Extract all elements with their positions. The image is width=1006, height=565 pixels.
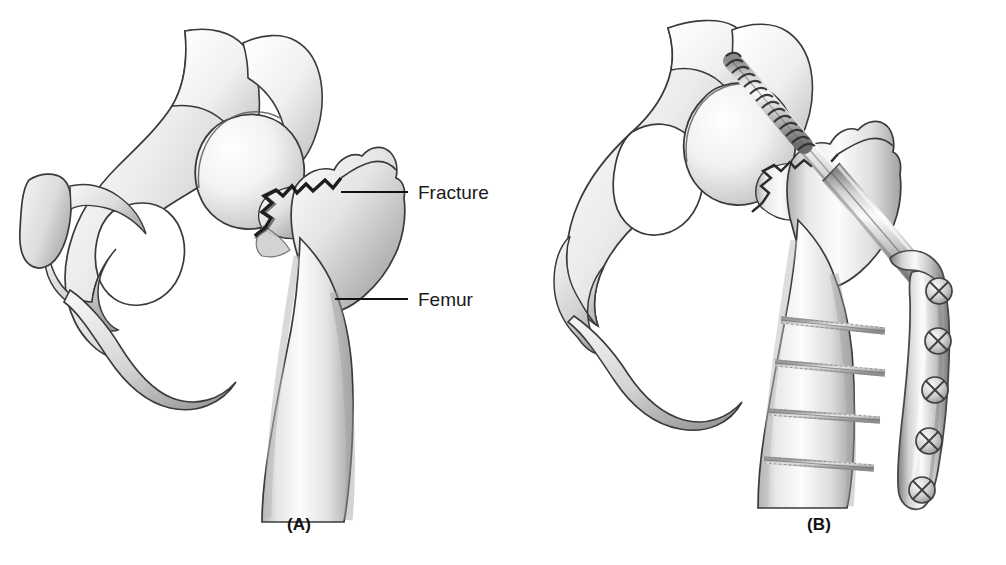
pubic-symphysis-stub — [20, 174, 71, 268]
label-text-femur: Femur — [418, 289, 474, 310]
panel-a-fractured-hip: Fracture Femur — [0, 0, 560, 565]
cropped-figure-caption — [30, 556, 470, 565]
plate-screw-head-3 — [922, 377, 948, 403]
panel-b-caption: (B) — [807, 515, 831, 535]
plate-screw-head-1 — [926, 278, 952, 304]
side-plate — [890, 251, 952, 510]
figure-root: Fracture Femur — [0, 0, 1006, 565]
panel-a-caption: (A) — [287, 515, 311, 535]
panel-b-fixed-hip — [540, 0, 1006, 565]
plate-screw-head-5 — [909, 477, 935, 503]
panel-a-illustration: Fracture Femur — [0, 0, 560, 565]
plate-screw-head-2 — [925, 328, 951, 354]
ischial-tuberosity — [568, 316, 742, 430]
plate-screw-head-4 — [916, 428, 942, 454]
label-text-fracture: Fracture — [418, 182, 489, 203]
panel-b-illustration — [540, 0, 1006, 565]
ischial-tuberosity — [64, 290, 236, 410]
